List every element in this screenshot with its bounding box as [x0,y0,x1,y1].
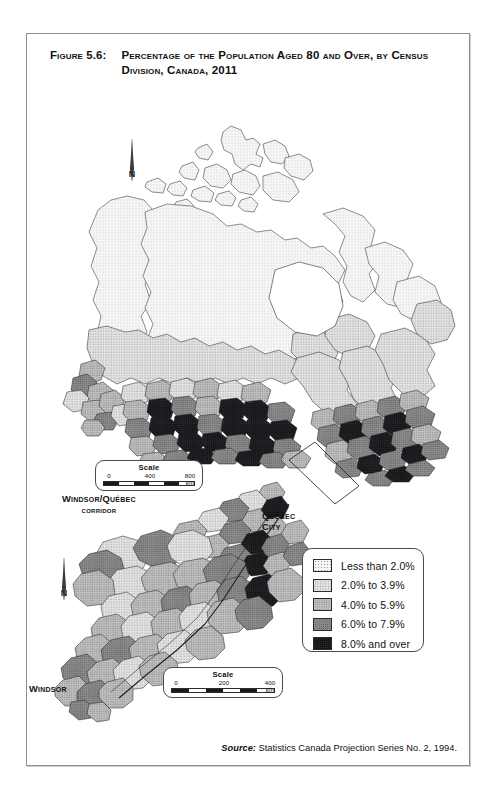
inset-extent-box [289,442,359,504]
scalebar-main-tick-0: 0 [107,472,110,479]
map-region-ontario-quebec-interior [291,300,455,418]
scalebar-inset-title: Scale [164,670,282,679]
legend-label: Less than 2.0% [341,560,415,572]
scalebar-main: Scale 0 400 800 km [95,460,203,491]
label-corridor-line2: corridor [62,505,136,516]
legend-label: 4.0% to 5.9% [341,599,405,611]
source-prefix: Source: [221,743,256,753]
map-hudson-bay [269,262,343,336]
page-title: Percentage of the Population Aged 80 and… [121,48,428,63]
legend-label: 6.0% to 7.9% [341,618,405,630]
figure-number: Figure 5.6: [50,48,106,63]
legend-label: 8.0% and over [341,638,410,650]
page-title-line2: Division, Canada, 2011 [121,63,428,78]
legend-item: 6.0% to 7.9% [313,615,423,634]
legend-swatch-darkest [313,637,332,650]
scalebar-inset: Scale 0 200 400 km [163,667,283,698]
scalebar-inset-bar [171,688,275,693]
legend-item: 2.0% to 3.9% [313,576,423,595]
legend-swatch-medium [313,598,332,611]
map-region-territories [89,196,441,370]
legend-swatch-lightest [313,559,332,572]
source-note: Source: Statistics Canada Projection Ser… [221,743,457,753]
label-windsor: Windsor [29,684,67,695]
legend-item: 4.0% to 5.9% [313,595,423,614]
label-quebec-city-line1: Québec [262,511,295,521]
legend-swatch-light [313,579,332,592]
north-arrow-main: N [123,139,141,194]
figure-title-block: Figure 5.6: Percentage of the Population… [50,48,450,78]
scalebar-inset-tick-2: 400 km [265,679,275,693]
legend-label: 2.0% to 3.9% [341,579,405,591]
source-text: Statistics Canada Projection Series No. … [256,743,457,753]
label-corridor-line1: Windsor/Québec [62,494,136,504]
legend-item: Less than 2.0% [313,556,423,575]
legend-item: 8.0% and over [313,634,423,653]
scalebar-inset-tick-1: 200 [219,679,229,686]
map-region-western-mid [87,314,375,384]
north-arrow-label-main: N [129,169,136,179]
map-legend: Less than 2.0% 2.0% to 3.9% 4.0% to 5.9%… [302,548,424,652]
north-arrow-label-inset: N [61,588,68,598]
map-region-arctic [145,126,313,214]
north-arrow-inset: N [55,558,73,613]
label-windsor-quebec-corridor: Windsor/Québec corridor [62,494,136,516]
canada-choropleth-map [27,34,471,767]
map-region-bc-south [63,360,135,436]
label-quebec-city-line2: City [262,522,281,532]
map-region-quebec-maritimes [311,390,449,486]
legend-swatch-dark [313,618,332,631]
scalebar-main-title: Scale [96,463,202,472]
map-region-prairies [121,378,311,468]
scalebar-main-bar [103,481,195,486]
scalebar-main-tick-2: 800 km [185,472,195,486]
scalebar-main-tick-1: 400 [145,472,155,479]
label-quebec-city: Québec City [262,511,295,533]
figure-page-frame: Figure 5.6: Percentage of the Population… [26,33,470,766]
scalebar-inset-tick-0: 0 [174,679,177,686]
